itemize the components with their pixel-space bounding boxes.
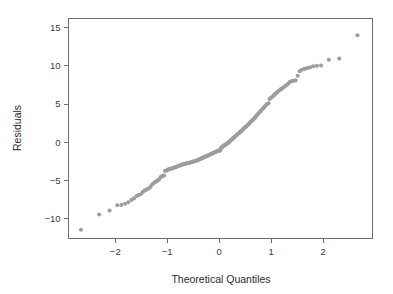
y-tick-label: −5: [50, 175, 61, 186]
y-tick-label: 0: [55, 137, 60, 148]
data-point: [97, 212, 101, 216]
data-point: [115, 203, 119, 207]
data-point-group: [79, 33, 360, 232]
y-tick-label: −10: [44, 213, 60, 224]
data-point: [319, 63, 323, 67]
x-tick-label: −2: [110, 246, 121, 257]
data-point: [108, 209, 112, 213]
scatter-plot-canvas: −2−1012−10−5051015 Theoretical Quantiles…: [0, 0, 393, 294]
axis-ticks: [64, 28, 323, 243]
y-tick-label: 5: [55, 98, 60, 109]
x-tick-label: 1: [269, 246, 274, 257]
data-point: [311, 64, 315, 68]
x-tick-label: 0: [217, 246, 222, 257]
data-point: [162, 173, 166, 177]
qq-plot-figure: −2−1012−10−5051015 Theoretical Quantiles…: [0, 0, 393, 294]
x-tick-label: −1: [162, 246, 173, 257]
data-point: [355, 33, 359, 37]
data-point: [337, 57, 341, 61]
data-point: [119, 203, 123, 207]
data-point: [296, 74, 300, 78]
data-point: [327, 58, 331, 62]
y-axis-title: Residuals: [11, 105, 23, 151]
axis-tick-labels: −2−1012−10−5051015: [44, 22, 325, 256]
y-tick-label: 10: [50, 60, 61, 71]
plot-frame: [69, 19, 373, 239]
data-point: [315, 64, 319, 68]
plot-border: [69, 19, 373, 239]
data-point: [267, 101, 271, 105]
x-axis-title: Theoretical Quantiles: [171, 273, 270, 285]
data-point: [79, 228, 83, 232]
x-tick-label: 2: [320, 246, 325, 257]
y-tick-label: 15: [50, 22, 61, 33]
data-point: [294, 78, 298, 82]
